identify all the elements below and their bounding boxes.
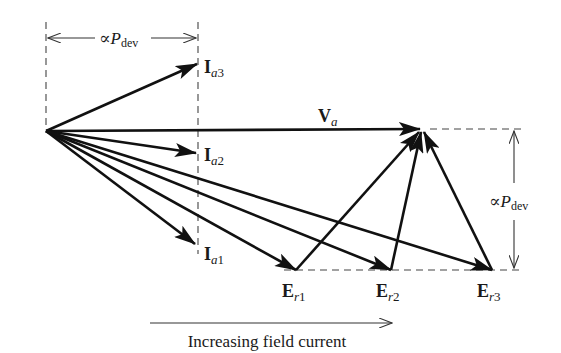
ea1-phasor <box>46 131 296 270</box>
er3-label: Er3 <box>477 281 501 304</box>
ia3-phasor <box>46 64 197 131</box>
top-power-dimension: ∝Pdev <box>48 29 196 50</box>
er1-label: Er1 <box>282 281 306 304</box>
ia2-phasor <box>46 131 196 153</box>
er-phasors <box>296 132 492 270</box>
field-current-indicator: Increasing field current <box>150 323 392 351</box>
origin-phasors <box>46 64 492 270</box>
er3-phasor <box>424 132 492 270</box>
er2-phasor <box>391 132 421 270</box>
field-current-label: Increasing field current <box>188 332 347 351</box>
ia3-label: Ia3 <box>204 57 224 80</box>
phasor-diagram: ∝Pdev ∝Pdev Va Ia3 Ia2 <box>0 0 561 353</box>
ea3-phasor <box>46 131 492 270</box>
guide-lines <box>46 22 522 270</box>
right-power-dimension: ∝Pdev <box>489 131 528 268</box>
phasor-labels: Va Ia3 Ia2 Ia1 Er1 Er2 Er3 <box>204 57 501 304</box>
ia1-label: Ia1 <box>204 244 224 267</box>
top-power-label: ∝Pdev <box>99 29 138 50</box>
ia1-phasor <box>46 131 195 244</box>
ia2-label: Ia2 <box>204 145 224 168</box>
er1-phasor <box>296 132 419 270</box>
er2-label: Er2 <box>376 281 400 304</box>
va-label: Va <box>318 106 338 129</box>
right-power-label: ∝Pdev <box>489 192 528 213</box>
ea2-phasor <box>46 131 391 270</box>
va-phasor <box>46 129 420 131</box>
